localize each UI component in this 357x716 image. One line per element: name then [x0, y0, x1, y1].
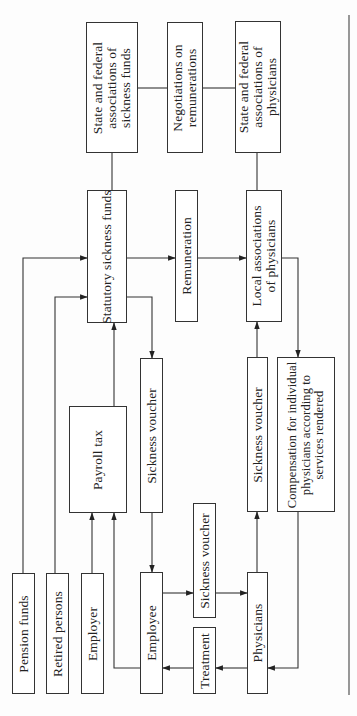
connector-compensation-to-physicians [268, 512, 298, 668]
node-pension-funds: Pension funds [12, 573, 35, 694]
connector-employee-to-payroll-tax [114, 513, 140, 668]
node-label: Negotiations on remunerations [171, 44, 199, 131]
node-label: Sickness voucher [251, 387, 265, 483]
node-payroll-tax: Payroll tax [69, 406, 127, 513]
node-employee: Employee [140, 572, 163, 694]
node-label: Sickness voucher [198, 513, 212, 609]
node-physicians: Physicians [247, 572, 268, 694]
node-label: Sickness voucher [145, 388, 159, 484]
node-state-fed-sickness-funds: State and federal associations of sickne… [86, 22, 138, 153]
node-label: State and federal associations of sickne… [91, 41, 133, 133]
node-employer: Employer [81, 573, 104, 694]
node-sickness-voucher-3: Sickness voucher [247, 357, 268, 512]
node-compensation: Compensation for individual physicians a… [277, 357, 335, 512]
node-label: Local associations of physicians [250, 205, 278, 306]
node-label: Retired persons [51, 591, 65, 677]
node-treatment: Treatment [193, 627, 216, 694]
node-sickness-voucher-1: Sickness voucher [140, 358, 163, 513]
node-label: Payroll tax [91, 430, 105, 490]
node-label: Employer [86, 606, 100, 660]
node-label: Statutory sickness funds [100, 190, 114, 324]
node-label: Remuneration [180, 217, 194, 295]
node-label: Treatment [198, 633, 212, 689]
node-label: Pension funds [17, 595, 31, 672]
node-sickness-voucher-2: Sickness voucher [193, 503, 216, 618]
node-label: State and federal associations of physic… [237, 41, 279, 133]
node-negotiations: Negotiations on remunerations [167, 22, 203, 153]
node-label: Physicians [251, 604, 265, 663]
node-retired-persons: Retired persons [46, 573, 69, 694]
connector-statutory-sickness-funds-to-sickness-voucher-1 [127, 297, 152, 358]
node-state-fed-physicians: State and federal associations of physic… [235, 21, 281, 153]
node-label: Employee [145, 605, 159, 661]
node-remuneration: Remuneration [175, 190, 198, 322]
node-label: Compensation for individual physicians a… [286, 361, 327, 507]
connector-local-assoc-physicians-to-compensation [282, 258, 298, 357]
diagram-canvas: State and federal associations of sickne… [0, 0, 357, 716]
node-local-assoc-physicians: Local associations of physicians [246, 190, 282, 322]
node-statutory-sickness-funds: Statutory sickness funds [87, 190, 127, 323]
